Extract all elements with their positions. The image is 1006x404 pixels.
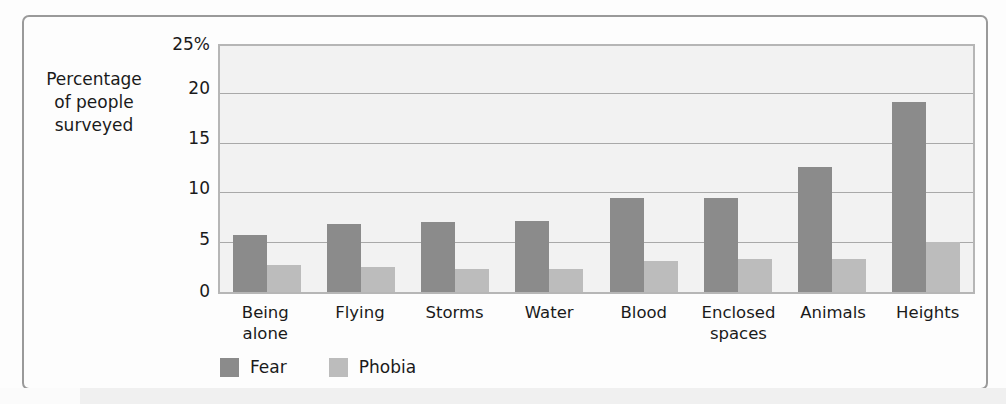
bar-group [515, 46, 583, 292]
x-tick-label-line: spaces [692, 323, 784, 344]
bar-groups [220, 46, 973, 292]
bar-fear [515, 221, 549, 292]
x-tick-label-line: Heights [882, 302, 974, 323]
x-tick-label: Blood [598, 302, 690, 350]
x-tick-label-line: alone [219, 323, 311, 344]
bar-group [704, 46, 772, 292]
page-bottom-band-left [0, 388, 80, 404]
bar-fear [421, 222, 455, 292]
bar-fear [610, 198, 644, 292]
y-tick-15: 15 [140, 128, 210, 148]
bar-group [798, 46, 866, 292]
bar-fear [704, 198, 738, 292]
figure: Percentage of people surveyed 25% 20 15 … [0, 0, 1006, 404]
bar-phobia [832, 259, 866, 292]
x-tick-label: Flying [314, 302, 406, 350]
y-tick-20: 20 [140, 78, 210, 98]
chart-legend: FearPhobia [218, 357, 550, 377]
legend-item-fear[interactable]: Fear [220, 357, 287, 377]
legend-item-phobia[interactable]: Phobia [329, 357, 416, 377]
bar-fear [233, 235, 267, 292]
x-tick-label: Heights [882, 302, 974, 350]
bar-group [327, 46, 395, 292]
legend-swatch-icon [220, 358, 239, 377]
page-bottom-band [0, 388, 1006, 404]
plot-area [218, 44, 975, 294]
bar-phobia [926, 242, 960, 292]
legend-label: Phobia [359, 357, 416, 377]
bar-fear [798, 167, 832, 292]
y-tick-5: 5 [140, 229, 210, 249]
y-tick-10: 10 [140, 178, 210, 198]
x-tick-label-line: Water [503, 302, 595, 323]
bar-group [610, 46, 678, 292]
x-tick-label-line: Being [219, 302, 311, 323]
bar-fear [892, 102, 926, 292]
bar-phobia [267, 265, 301, 292]
bar-group [892, 46, 960, 292]
bar-phobia [455, 269, 489, 292]
x-tick-label: Water [503, 302, 595, 350]
bar-phobia [361, 267, 395, 292]
y-tick-25: 25% [140, 34, 210, 54]
bar-phobia [644, 261, 678, 292]
bar-fear [327, 224, 361, 292]
x-tick-label-line: Storms [409, 302, 501, 323]
bar-phobia [549, 269, 583, 292]
legend-label: Fear [250, 357, 287, 377]
x-tick-label: Storms [409, 302, 501, 350]
x-tick-label-line: Enclosed [692, 302, 784, 323]
y-axis-ticks: 25% 20 15 10 5 0 [135, 0, 210, 404]
y-tick-0: 0 [140, 281, 210, 301]
legend-swatch-icon [329, 358, 348, 377]
x-axis-ticks: BeingaloneFlyingStormsWaterBloodEnclosed… [218, 302, 975, 350]
x-tick-label: Beingalone [219, 302, 311, 350]
bar-phobia [738, 259, 772, 292]
x-tick-label-line: Animals [787, 302, 879, 323]
x-tick-label-line: Flying [314, 302, 406, 323]
x-tick-label-line: Blood [598, 302, 690, 323]
bar-group [233, 46, 301, 292]
x-tick-label: Animals [787, 302, 879, 350]
x-tick-label: Enclosedspaces [692, 302, 784, 350]
bar-group [421, 46, 489, 292]
